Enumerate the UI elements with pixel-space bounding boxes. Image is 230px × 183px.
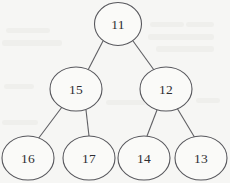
tree-node[interactable]: 13 <box>175 136 227 180</box>
tree-node[interactable]: 17 <box>63 136 115 180</box>
tree-node-label: 12 <box>159 82 173 97</box>
tree-edge <box>177 108 195 138</box>
tree-edge <box>38 107 62 139</box>
tree-node-label: 14 <box>137 151 151 166</box>
tree-node-label: 13 <box>194 151 208 166</box>
tree-node-label: 17 <box>82 151 96 166</box>
tree-node-label: 15 <box>69 82 83 97</box>
tree-node[interactable]: 15 <box>50 67 102 111</box>
tree-canvas: 11151216171413 <box>0 0 230 183</box>
tree-edge <box>86 110 89 136</box>
tree-edge <box>147 110 157 136</box>
binary-tree-figure: 11151216171413 <box>0 0 230 183</box>
tree-node[interactable]: 12 <box>140 67 192 111</box>
tree-node-label: 16 <box>21 151 35 166</box>
tree-node[interactable]: 16 <box>2 136 54 180</box>
tree-edge <box>88 41 103 70</box>
tree-node-label: 11 <box>111 17 125 32</box>
tree-node[interactable]: 14 <box>118 136 170 180</box>
tree-edge <box>133 41 154 70</box>
tree-node[interactable]: 11 <box>95 3 142 46</box>
tree-node-group: 11151216171413 <box>2 3 227 181</box>
